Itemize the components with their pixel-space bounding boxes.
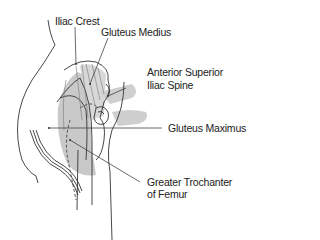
label-iliac-crest: Iliac Crest [55,16,99,27]
label-greater-trochanter-line1: Greater Trochanter [147,177,232,188]
label-gluteus-maximus: Gluteus Maximus [168,123,246,134]
label-asis-line1: Anterior Superior [147,67,223,78]
label-gluteus-medius: Gluteus Medius [101,27,171,38]
muscle-shading [58,64,147,175]
leader-iliac-crest [75,27,76,64]
label-greater-trochanter-line2: of Femur [147,189,187,200]
label-asis-line2: Iliac Spine [147,80,193,91]
